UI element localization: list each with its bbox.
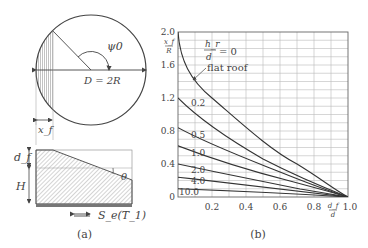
H-label: H <box>15 180 26 193</box>
y-axis-label: x_f R <box>164 38 175 55</box>
caption-b: (b) <box>250 228 266 241</box>
curve-labels: h_r d = 0 flat roof 0.2 0.5 1.0 2.0 4.0 … <box>179 39 249 197</box>
diameter-label: D = 2R <box>83 75 121 86</box>
svg-text:d: d <box>331 211 336 219</box>
y-tick: 1.6 <box>161 60 176 70</box>
df-label: d_f <box>14 151 33 164</box>
xf-dimension: x_f <box>36 120 55 145</box>
x-axis-label: d_f d <box>328 202 340 219</box>
y-tick: 1.2 <box>161 93 175 103</box>
x-tick: 0.6 <box>273 202 288 212</box>
legend-title-eq: = 0 <box>219 46 237 57</box>
tank-plan-view: ψ0 D = 2R <box>36 15 146 140</box>
angle-label: ψ0 <box>107 40 123 53</box>
y-tick: 0 <box>169 192 175 202</box>
xf-label: x_f <box>38 124 55 136</box>
curve-label: 4.0 <box>191 176 206 186</box>
curve-label: 10.0 <box>179 187 199 197</box>
excitation-label: S_e(T_1) <box>98 209 146 222</box>
tank-elevation-view: d_f H θ S_e(T_1) (a) <box>14 150 146 241</box>
x-tick: 0.4 <box>239 202 254 212</box>
curve-label: 0.5 <box>191 130 206 140</box>
caption-a: (a) <box>77 228 92 241</box>
legend-title-num: h_r <box>205 39 220 50</box>
flat-roof-label: flat roof <box>207 62 249 73</box>
curve-label: 2.0 <box>191 165 206 175</box>
y-tick: 2.0 <box>161 27 176 37</box>
legend-title-den: d <box>206 52 212 62</box>
x-tick: 0.2 <box>205 202 219 212</box>
curve-label: 0.2 <box>191 98 205 108</box>
theta-label: θ <box>121 171 127 182</box>
y-tick: 0.8 <box>161 126 176 136</box>
y-tick: 0.4 <box>161 159 176 169</box>
excitation-arrow-icon <box>74 214 90 216</box>
figure: ψ0 D = 2R x_f d_f H θ S <box>0 0 368 248</box>
panel-a: ψ0 D = 2R x_f d_f H θ S <box>14 15 146 241</box>
svg-text:x_f: x_f <box>164 38 175 46</box>
curve-label: 1.0 <box>191 148 206 158</box>
svg-text:R: R <box>165 47 172 55</box>
x-tick: 0.8 <box>307 202 322 212</box>
x-tick: 1.0 <box>343 202 358 212</box>
panel-b-chart: h_r d = 0 flat roof 0.2 0.5 1.0 2.0 4.0 … <box>161 27 358 241</box>
svg-text:d_f: d_f <box>328 202 340 210</box>
